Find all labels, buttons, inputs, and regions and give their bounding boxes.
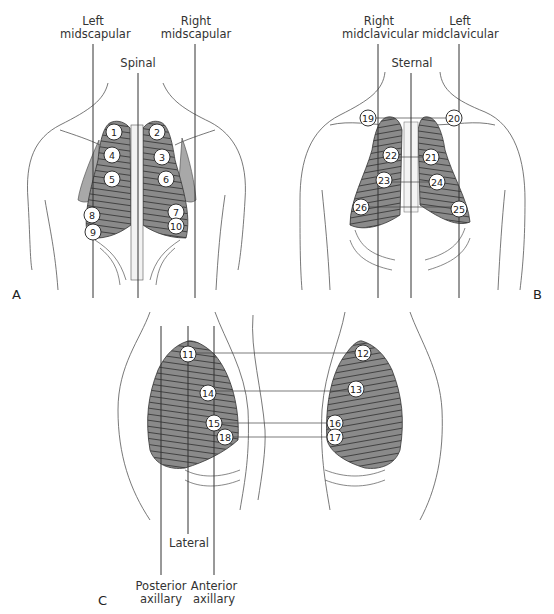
auscultation-point-13: 13 <box>348 381 365 398</box>
label-left-midclavicular: Left midclavicular <box>422 15 498 41</box>
auscultation-point-24: 24 <box>429 174 446 191</box>
auscultation-diagram <box>0 0 554 614</box>
auscultation-point-20: 20 <box>446 110 463 127</box>
panel-letter-c: C <box>98 593 107 608</box>
auscultation-point-19: 19 <box>360 110 377 127</box>
auscultation-point-2: 2 <box>149 124 166 141</box>
auscultation-point-22: 22 <box>383 147 400 164</box>
panel-b-anterior <box>300 44 525 298</box>
auscultation-point-8: 8 <box>84 207 101 224</box>
label-posterior-axillary: Posterior axillary <box>132 580 190 606</box>
auscultation-point-18: 18 <box>217 429 234 446</box>
auscultation-point-14: 14 <box>200 385 217 402</box>
label-lateral: Lateral <box>165 537 213 550</box>
label-sternal: Sternal <box>385 57 439 70</box>
auscultation-point-3: 3 <box>154 149 171 166</box>
label-left-midscapular: Left midscapular <box>60 15 126 41</box>
auscultation-point-26: 26 <box>353 199 370 216</box>
label-anterior-axillary: Anterior axillary <box>188 580 240 606</box>
label-right-midclavicular: Right midclavicular <box>342 15 416 41</box>
auscultation-point-10: 10 <box>168 218 185 235</box>
auscultation-point-9: 9 <box>85 224 102 241</box>
auscultation-point-25: 25 <box>451 201 468 218</box>
panel-c-lateral <box>118 312 442 575</box>
panel-letter-b: B <box>533 287 542 302</box>
panel-a-posterior <box>27 44 245 298</box>
auscultation-point-21: 21 <box>423 149 440 166</box>
auscultation-point-11: 11 <box>180 346 197 363</box>
auscultation-point-6: 6 <box>158 171 175 188</box>
auscultation-point-23: 23 <box>376 172 393 189</box>
label-right-midscapular: Right midscapular <box>160 15 232 41</box>
auscultation-point-1: 1 <box>106 124 123 141</box>
panel-letter-a: A <box>12 287 21 302</box>
auscultation-point-5: 5 <box>104 171 121 188</box>
label-spinal: Spinal <box>112 57 164 70</box>
auscultation-point-12: 12 <box>355 345 372 362</box>
auscultation-point-17: 17 <box>327 429 344 446</box>
auscultation-point-4: 4 <box>104 147 121 164</box>
